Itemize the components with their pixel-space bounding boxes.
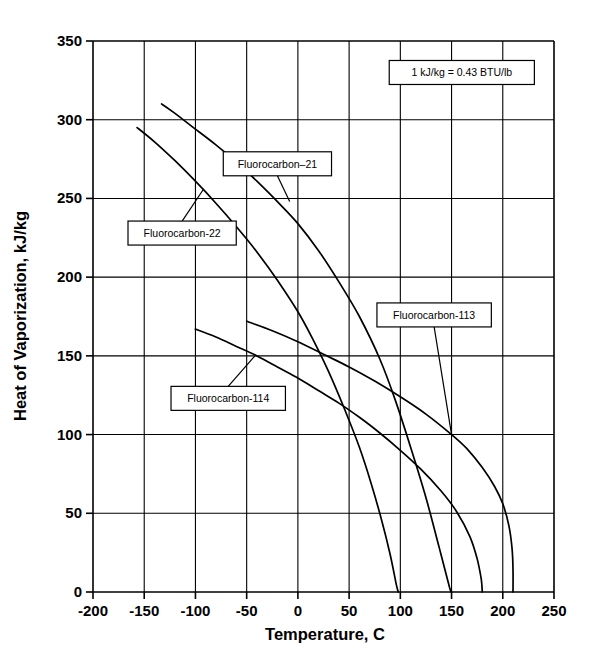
x-tick-label: 150 (439, 602, 464, 619)
curve-fluorocarbon-114 (195, 329, 482, 592)
y-tick-label: 300 (57, 111, 82, 128)
callout-fluorocarbon-21-leader-line (277, 176, 289, 202)
callout-fluorocarbon-114-leader-line (228, 356, 255, 387)
x-tick-label: 250 (541, 602, 566, 619)
curve-fluorocarbon-22 (137, 128, 398, 592)
x-axis-title: Temperature, C (265, 625, 385, 643)
curves-layer (137, 104, 513, 592)
callout-fluorocarbon-21-text: Fluorocarbon–21 (238, 158, 318, 170)
callout-fluorocarbon-22-leader-line (182, 189, 204, 221)
x-tick-label: 100 (388, 602, 413, 619)
callout-fluorocarbon-22-text: Fluorocarbon-22 (144, 227, 221, 239)
unit-conversion-note-text: 1 kJ/kg = 0.43 BTU/lb (411, 66, 512, 78)
x-tick-label: -100 (180, 602, 210, 619)
y-tick-label: 200 (57, 268, 82, 285)
callout-fluorocarbon-113-leader-line (434, 327, 451, 435)
x-tick-label: 0 (294, 602, 302, 619)
y-tick-label: 250 (57, 189, 82, 206)
y-tick-label: 100 (57, 426, 82, 443)
callout-fluorocarbon-113-text: Fluorocarbon-113 (393, 309, 475, 321)
curve-fluorocarbon-113 (247, 321, 513, 592)
curve-fluorocarbon-21 (162, 104, 452, 592)
y-tick-label: 350 (57, 32, 82, 49)
heat-of-vaporization-chart: 050100150200250300350-200-150-100-500501… (0, 0, 597, 669)
x-tick-label: -50 (236, 602, 258, 619)
y-axis-title: Heat of Vaporization, kJ/kg (11, 211, 29, 421)
x-tick-label: -200 (78, 602, 108, 619)
y-tick-label: 150 (57, 347, 82, 364)
chart-figure: 050100150200250300350-200-150-100-500501… (0, 0, 597, 669)
x-tick-label: 200 (490, 602, 515, 619)
x-tick-label: -150 (129, 602, 159, 619)
x-tick-label: 50 (341, 602, 358, 619)
callout-fluorocarbon-114-text: Fluorocarbon-114 (187, 392, 269, 404)
y-tick-label: 50 (65, 504, 82, 521)
y-tick-label: 0 (74, 583, 82, 600)
